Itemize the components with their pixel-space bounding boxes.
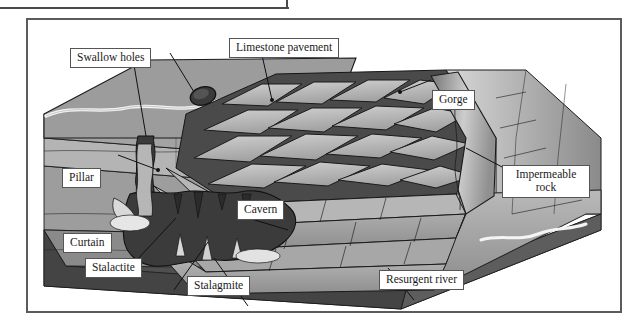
label-impermeable-rock-line1: Impermeable	[516, 168, 577, 180]
label-impermeable-rock-line2: rock	[536, 181, 556, 193]
label-curtain[interactable]: Curtain	[63, 233, 112, 253]
label-stalactite[interactable]: Stalactite	[85, 258, 142, 278]
label-pillar[interactable]: Pillar	[62, 168, 101, 188]
figure-stage: Swallow holes Limestone pavement Gorge I…	[0, 0, 635, 331]
page-top-rule	[0, 7, 289, 9]
label-swallow-holes[interactable]: Swallow holes	[70, 48, 151, 68]
label-stalagmite[interactable]: Stalagmite	[187, 276, 250, 296]
label-resurgent-river[interactable]: Resurgent river	[379, 270, 464, 290]
page-top-rule-tick	[286, 0, 288, 9]
label-gorge[interactable]: Gorge	[432, 90, 475, 110]
label-limestone-pavement[interactable]: Limestone pavement	[229, 38, 339, 58]
label-impermeable-rock[interactable]: Impermeable rock	[502, 165, 590, 198]
label-cavern[interactable]: Cavern	[237, 200, 284, 220]
